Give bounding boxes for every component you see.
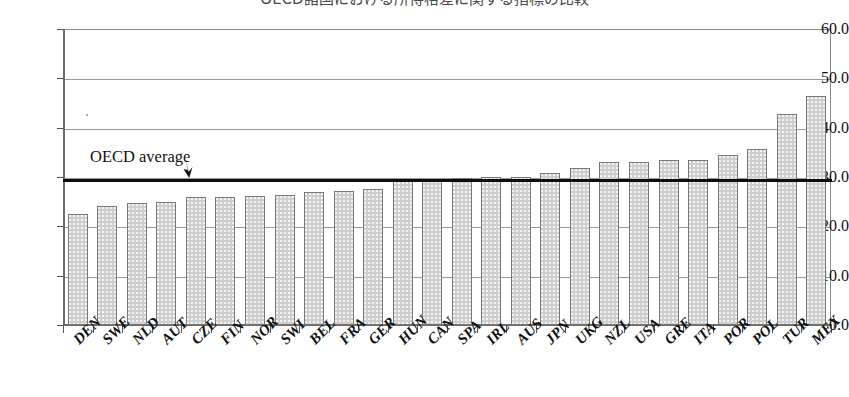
scan-speck	[86, 114, 88, 116]
bar-bel	[304, 192, 324, 325]
gridline	[64, 79, 830, 80]
oecd-average-line	[63, 179, 832, 182]
x-axis-tick-mark	[63, 325, 64, 333]
bar-irl	[481, 177, 501, 325]
bar-fra	[334, 191, 354, 325]
y-axis-tick-label: 60.0	[793, 20, 849, 38]
bar-nor	[245, 196, 265, 325]
plot-area	[63, 29, 831, 325]
bar-gre	[659, 160, 679, 325]
bar-nzl	[599, 162, 619, 325]
bar-ukg	[570, 168, 590, 325]
oecd-average-label: OECD average	[90, 147, 190, 167]
bar-aut	[156, 202, 176, 325]
bar-cze	[186, 197, 206, 325]
y-axis-tick-mark	[57, 177, 64, 178]
bar-swi	[275, 195, 295, 325]
y-axis-tick-mark	[57, 226, 64, 227]
bar-den	[68, 214, 88, 325]
bar-spa	[452, 178, 472, 326]
bar-nld	[127, 203, 147, 325]
down-arrow-icon	[182, 159, 196, 179]
bar-swe	[97, 206, 117, 325]
y-axis-tick-mark	[57, 78, 64, 79]
gridline	[64, 227, 830, 228]
bar-aus	[511, 177, 531, 325]
bar-jpn	[540, 173, 560, 325]
bar-mex	[806, 96, 826, 325]
bar-usa	[629, 162, 649, 325]
bar-ita	[688, 160, 708, 325]
bar-hun	[393, 181, 413, 325]
bar-tur	[777, 114, 797, 325]
gridline	[64, 277, 830, 278]
chart-canvas: OECD諸国における所得格差に関する指標の比較 60.050.040.030.0…	[0, 0, 849, 397]
page-title: OECD諸国における所得格差に関する指標の比較	[0, 0, 849, 8]
bar-can	[422, 180, 442, 325]
y-axis-tick-mark	[57, 29, 64, 30]
gridline	[64, 129, 830, 130]
y-axis-tick-mark	[57, 128, 64, 129]
y-axis-tick-label: 50.0	[793, 69, 849, 87]
bar-fin	[215, 197, 235, 325]
bar-pol	[747, 149, 767, 325]
y-axis-tick-mark	[57, 276, 64, 277]
bar-ger	[363, 189, 383, 325]
chart-title-cropped: OECD諸国における所得格差に関する指標の比較	[0, 0, 849, 14]
